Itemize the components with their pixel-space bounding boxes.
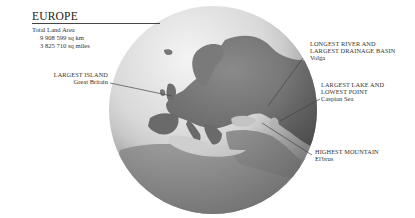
callout-value: Caspian Sea xyxy=(321,95,415,103)
callout-longest-river: LONGEST RIVER AND LARGEST DRAINAGE BASIN… xyxy=(310,40,415,62)
callout-heading-line2: LOWEST POINT xyxy=(321,88,415,95)
callout-largest-lake: LARGEST LAKE AND LOWEST POINT Caspian Se… xyxy=(321,81,415,103)
callout-heading-line1: LARGEST LAKE AND xyxy=(321,81,415,88)
title-rule xyxy=(32,23,160,24)
callout-highest-mountain: HIGHEST MOUNTAIN El'brus xyxy=(315,148,415,163)
callout-heading: HIGHEST MOUNTAIN xyxy=(315,148,415,155)
callout-heading-line1: LONGEST RIVER AND xyxy=(310,40,415,47)
callout-heading: LARGEST ISLAND xyxy=(30,71,108,78)
callout-value: Great Britain xyxy=(30,78,108,86)
callout-heading-line2: LARGEST DRAINAGE BASIN xyxy=(310,47,415,54)
region-title: EUROPE xyxy=(32,10,78,22)
callout-largest-island: LARGEST ISLAND Great Britain xyxy=(30,71,108,86)
total-land-area-label: Total Land Area xyxy=(32,26,75,33)
globe-shading xyxy=(109,6,317,214)
callout-value: Volga xyxy=(310,54,415,62)
callout-value: El'brus xyxy=(315,155,415,163)
total-land-area-km: 9 908 599 sq km xyxy=(40,34,84,41)
total-land-area-miles: 3 825 710 sq miles xyxy=(40,42,90,49)
